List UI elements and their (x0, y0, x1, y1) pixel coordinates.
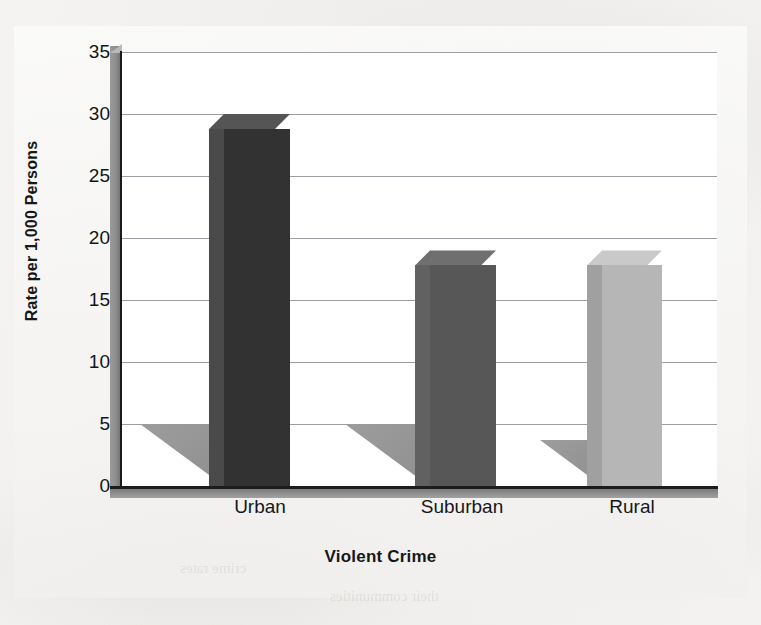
y-tick-10: 10 (64, 351, 110, 373)
bar-urban[interactable] (224, 114, 290, 486)
y-axis-title: Rate per 1,000 Persons (23, 91, 41, 371)
x-tick-urban: Urban (200, 496, 320, 518)
bar-rural[interactable] (602, 250, 662, 486)
x-axis-title: Violent Crime (0, 547, 761, 567)
bar-urban-side-face (209, 129, 224, 486)
bar-suburban-front-face (430, 265, 496, 486)
x-axis-line (110, 486, 718, 489)
y-tick-35: 35 (64, 41, 110, 63)
y-tick-25: 25 (64, 165, 110, 187)
y-tick-0: 0 (64, 475, 110, 497)
y-tick-20: 20 (64, 227, 110, 249)
y-tick-30: 30 (64, 103, 110, 125)
y-tick-15: 15 (64, 289, 110, 311)
y-axis-tick-labels: 35 30 25 20 15 10 5 0 (56, 0, 110, 625)
x-tick-suburban: Suburban (392, 496, 532, 518)
gridline-30 (120, 114, 717, 115)
violent-crime-bar-chart: Rate per 1,000 Persons 35 30 25 20 15 10… (0, 0, 761, 625)
bar-rural-side-face (587, 265, 602, 486)
x-tick-rural: Rural (572, 496, 692, 518)
y-tick-5: 5 (64, 413, 110, 435)
bar-suburban-side-face (415, 265, 430, 486)
bar-suburban[interactable] (430, 250, 496, 486)
bar-rural-front-face (602, 265, 662, 486)
bar-urban-front-face (224, 129, 290, 486)
y-axis-line (120, 51, 122, 487)
gridline-35 (120, 52, 717, 53)
